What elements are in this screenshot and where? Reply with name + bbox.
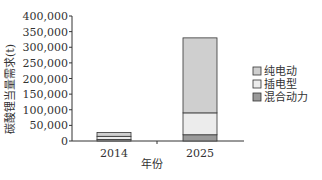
- y-tick-label: 0: [61, 135, 68, 148]
- x-axis-title: 年份: [141, 157, 163, 171]
- bar-segment: [97, 136, 131, 139]
- x-tick-label: 2025: [186, 147, 214, 160]
- x-tick-label: 2014: [100, 147, 128, 160]
- bar-segment: [183, 38, 217, 113]
- y-axis-title: 碳酸锂当量需求(t): [3, 44, 17, 134]
- bars: [97, 38, 217, 141]
- legend-swatch: [253, 93, 261, 101]
- bar-segment: [183, 135, 217, 141]
- legend-label: 混合动力: [264, 90, 308, 104]
- legend-label: 纯电动: [264, 65, 297, 78]
- y-axis: 050,000100,000150,000200,000250,000300,0…: [23, 10, 73, 148]
- bar-segment: [183, 113, 217, 135]
- legend-swatch: [253, 80, 261, 88]
- y-tick-label: 350,000: [23, 26, 69, 39]
- legend: 纯电动插电型混合动力: [253, 65, 308, 104]
- bar-segment: [97, 133, 131, 137]
- y-tick-label: 100,000: [23, 104, 69, 117]
- legend-label: 插电型: [264, 77, 297, 91]
- y-tick-label: 200,000: [23, 73, 69, 86]
- y-tick-label: 250,000: [23, 57, 69, 70]
- legend-swatch: [253, 67, 261, 75]
- y-tick-label: 50,000: [30, 119, 69, 132]
- y-tick-label: 300,000: [23, 41, 69, 54]
- y-tick-label: 400,000: [23, 10, 69, 23]
- stacked-bar-chart: 050,000100,000150,000200,000250,000300,0…: [0, 0, 322, 180]
- y-tick-label: 150,000: [23, 88, 69, 101]
